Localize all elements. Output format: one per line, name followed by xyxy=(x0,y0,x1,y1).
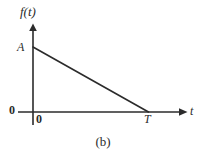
plot-area xyxy=(0,0,206,156)
y-axis-label: f(t) xyxy=(20,5,36,18)
data-series-ramp xyxy=(33,47,149,112)
amplitude-label-A: A xyxy=(17,41,24,53)
figure-panel: f(t) A 0 0 T t (b) xyxy=(0,0,206,156)
origin-label-below: 0 xyxy=(36,113,42,125)
figure-caption: (b) xyxy=(0,134,206,150)
y-axis-arrowhead xyxy=(29,24,37,32)
x-axis-arrowhead xyxy=(179,108,188,116)
period-label-T: T xyxy=(144,113,151,125)
origin-label-left: 0 xyxy=(9,104,15,116)
x-axis-label: t xyxy=(190,105,193,117)
x-axis xyxy=(18,108,188,116)
y-axis xyxy=(29,24,37,126)
